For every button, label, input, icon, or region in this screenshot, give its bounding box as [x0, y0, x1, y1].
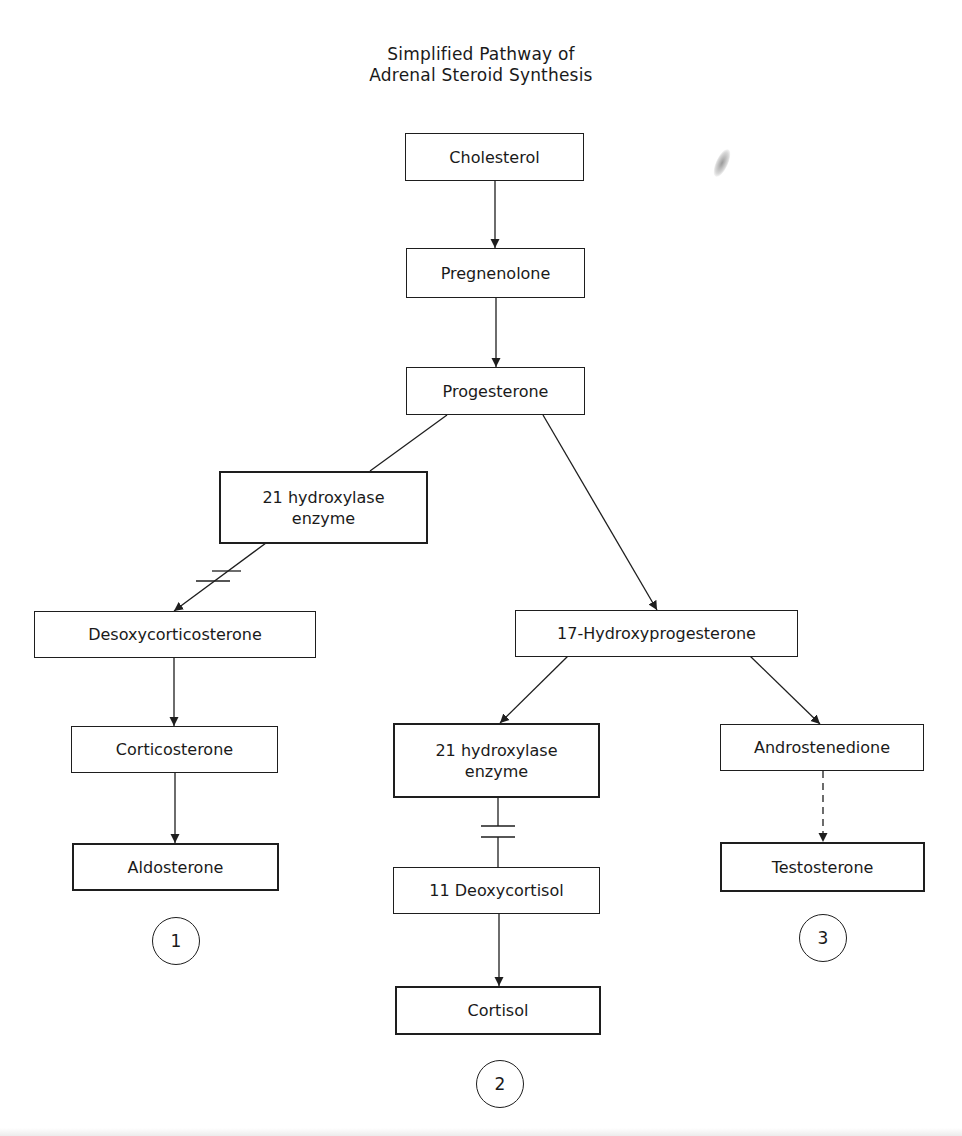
node-21-hydroxylase-enzyme-left: 21 hydroxylase enzyme [219, 471, 428, 544]
node-label: Testosterone [772, 857, 874, 878]
node-androstenedione: Androstenedione [720, 724, 924, 771]
node-label: Cortisol [468, 1000, 529, 1021]
arrow-enzyme-left-desoxycorticosterone [174, 543, 266, 611]
node-label: 21 hydroxylase enzyme [262, 487, 384, 529]
node-corticosterone: Corticosterone [71, 726, 278, 773]
node-label: Androstenedione [754, 737, 890, 758]
node-label: 17-Hydroxyprogesterone [557, 623, 756, 644]
node-aldosterone: Aldosterone [72, 843, 279, 891]
node-label: Corticosterone [116, 739, 233, 760]
node-label: 11 Deoxycortisol [429, 880, 563, 901]
arrow-17-hydroxyprogesterone-androstenedione [750, 656, 820, 724]
node-label: Pregnenolone [441, 263, 551, 284]
pathway-marker-2: 2 [476, 1060, 524, 1108]
node-label: Aldosterone [128, 857, 224, 878]
node-testosterone: Testosterone [720, 842, 925, 892]
marker-number: 1 [171, 931, 182, 951]
node-pregnenolone: Pregnenolone [406, 248, 585, 298]
node-21-hydroxylase-enzyme-middle: 21 hydroxylase enzyme [393, 723, 600, 798]
marker-number: 3 [818, 928, 829, 948]
node-label: Cholesterol [449, 147, 539, 168]
pathway-marker-3: 3 [799, 914, 847, 962]
node-desoxycorticosterone: Desoxycorticosterone [34, 611, 316, 658]
node-11-deoxycortisol: 11 Deoxycortisol [393, 867, 600, 914]
arrow-progesterone-17-hydroxyprogesterone [543, 415, 657, 610]
node-progesterone: Progesterone [406, 367, 585, 415]
pathway-marker-1: 1 [152, 917, 200, 965]
node-cortisol: Cortisol [395, 986, 601, 1035]
node-cholesterol: Cholesterol [405, 133, 584, 181]
node-17-hydroxyprogesterone: 17-Hydroxyprogesterone [515, 610, 798, 657]
marker-number: 2 [495, 1074, 506, 1094]
arrow-17-hydroxyprogesterone-enzyme-middle [500, 656, 568, 723]
node-label: 21 hydroxylase enzyme [435, 740, 557, 782]
cropped-caption-edge [0, 1128, 962, 1136]
node-label: Progesterone [443, 381, 549, 402]
line-progesterone-enzyme-left [370, 415, 447, 471]
node-label: Desoxycorticosterone [88, 624, 262, 645]
